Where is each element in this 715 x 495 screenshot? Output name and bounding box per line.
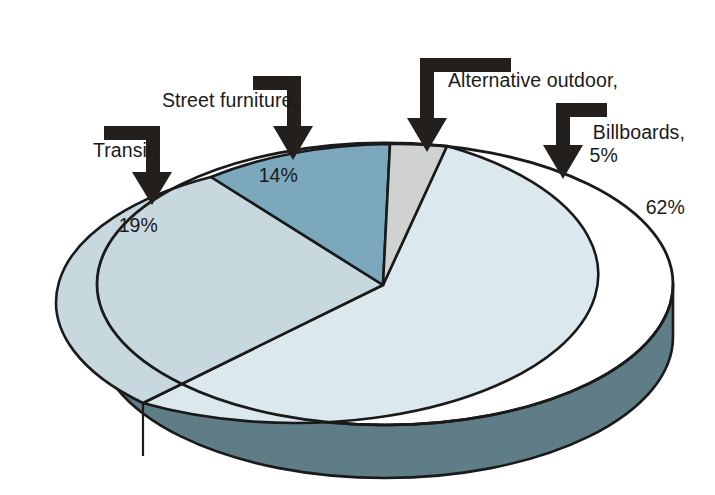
callout-label-billboards: Billboards, 62% (560, 70, 685, 270)
pie-chart-figure: Transit, 19% Street furniture, 14% Alter… (0, 0, 715, 495)
callout-label-transit-line1: Transit, (28, 138, 158, 163)
callout-label-billboards-line2: 62% (560, 195, 685, 220)
callout-label-street-furniture-line2: 14% (148, 163, 298, 188)
callout-label-street-furniture-line1: Street furniture, (148, 88, 298, 113)
callout-label-street-furniture: Street furniture, 14% (148, 38, 298, 238)
callout-label-transit: Transit, 19% (28, 88, 158, 288)
callout-label-billboards-line1: Billboards, (560, 120, 685, 145)
callout-label-transit-line2: 19% (28, 213, 158, 238)
